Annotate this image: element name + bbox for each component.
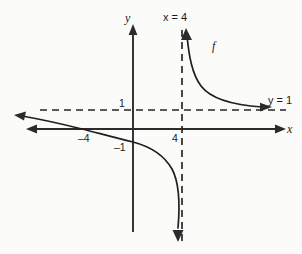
coordinate-plane-svg: y x x = 4 y = 1 f 1 –1 –4 4: [0, 0, 302, 254]
graph-figure: y x x = 4 y = 1 f 1 –1 –4 4: [0, 0, 302, 254]
function-label-f: f: [212, 39, 217, 53]
x-axis-arrow-left: [26, 125, 37, 134]
curve-left-arrow: [14, 112, 26, 121]
x-axis-arrow-right: [275, 125, 286, 134]
y-axis-arrow-up: [129, 24, 138, 35]
x-axis: [26, 125, 286, 134]
horizontal-asymptote-label: y = 1: [268, 94, 292, 106]
y-axis-label: y: [124, 11, 131, 25]
tick-label-y-1: 1: [119, 97, 125, 109]
x-axis-label: x: [286, 122, 293, 136]
tick-label-x-neg4: –4: [78, 132, 90, 144]
scan-artifact: [60, 0, 250, 4]
tick-label-x-4: 4: [172, 132, 178, 144]
tick-label-y-neg1: –1: [114, 141, 126, 153]
curve-left-branch: [14, 112, 184, 243]
vertical-asymptote-label: x = 4: [163, 11, 187, 23]
y-axis: [129, 24, 138, 232]
curve-right-branch: [181, 28, 272, 112]
